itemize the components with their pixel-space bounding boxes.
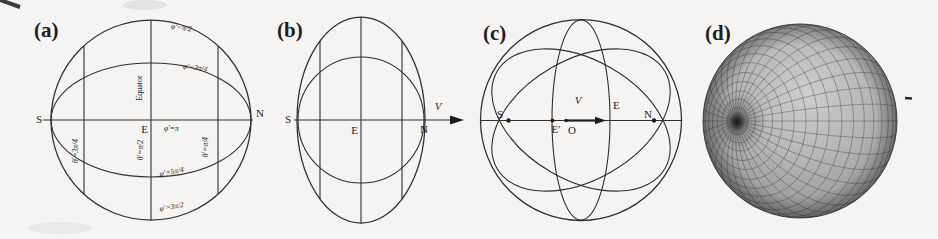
label-N: N (420, 123, 428, 135)
panel-a: (a) S N E Equator φ′=π/2 φ′=3π/4 φ′=π φ′… (34, 18, 264, 220)
point-E-prime-dot (551, 119, 555, 123)
label-N: N (256, 107, 264, 119)
rim-shading (703, 24, 897, 218)
label-theta-3pi4: θ′=3π/4 (71, 139, 80, 163)
label-phi-3pi4: φ′=3π/4 (183, 61, 209, 73)
label-theta-pi2: θ′=π/2 (136, 140, 145, 160)
label-phi-pi2: φ′=π/2 (170, 22, 192, 34)
label-O: O (568, 124, 576, 136)
label-phi-3pi2: φ′=3π/2 (159, 200, 185, 213)
figure-page: (a) S N E Equator φ′=π/2 φ′=3π/4 φ′=π φ′… (0, 0, 938, 239)
label-E-prime: E′ (551, 123, 560, 135)
point-N-dot (652, 118, 656, 122)
label-E: E (613, 99, 620, 111)
label-S: S (285, 113, 291, 125)
label-V: V (575, 94, 583, 106)
panel-c: (c) S E′ O V E N (467, 20, 695, 221)
label-theta-pi4: θ′=π/4 (201, 137, 210, 157)
panel-c-label: (c) (483, 21, 506, 45)
scan-smudge (28, 222, 92, 234)
label-equator: Equator (135, 75, 144, 101)
velocity-arrowhead (595, 117, 606, 125)
scan-dash-mark (905, 98, 912, 99)
panel-d-label: (d) (705, 21, 731, 45)
label-E: E (141, 123, 148, 135)
label-N: N (644, 108, 652, 120)
figure-canvas: (a) S N E Equator φ′=π/2 φ′=3π/4 φ′=π φ′… (0, 0, 938, 239)
panel-a-label: (a) (34, 18, 59, 42)
label-S: S (497, 108, 503, 120)
label-E: E (351, 124, 358, 136)
label-S: S (36, 113, 42, 125)
label-phi-pi: φ′=π (164, 124, 179, 133)
label-V: V (435, 100, 443, 112)
velocity-arrowhead (450, 116, 464, 125)
scan-smudge (123, 0, 167, 10)
point-S-dot (506, 118, 510, 122)
panel-b-label: (b) (277, 18, 303, 42)
scan-corner-mark (0, 0, 20, 7)
panel-d: (d) (703, 21, 897, 218)
panel-b: (b) S E N V (277, 17, 464, 223)
